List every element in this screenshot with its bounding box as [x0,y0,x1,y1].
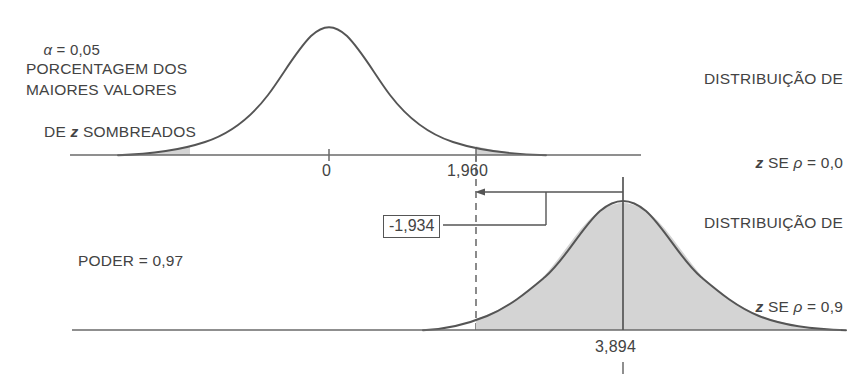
callout-value-box: -1,934 [383,215,440,238]
shading-caption-line-3: DE z SOMBREADOS [26,100,196,163]
lower-label-value: = 0,9 [803,298,843,315]
shading-caption-line-2: MAIORES VALORES [26,79,177,100]
power-label: PODER = 0,97 [78,250,183,271]
shading-caption-prefix: DE [44,123,70,140]
upper-label-value: = 0,0 [803,154,843,171]
upper-label-se: SE [763,154,793,171]
lower-label-rho: ρ [794,298,803,315]
power-analysis-figure: α = 0,05 PORCENTAGEM DOS MAIORES VALORES… [0,0,867,387]
alpha-symbol: α [43,41,52,58]
shading-caption-line-1: PORCENTAGEM DOS [26,58,187,79]
shading-caption-suffix: SOMBREADOS [78,123,196,140]
upper-label-rho: ρ [794,154,803,171]
lower-distribution-label-line1: DISTRIBUIÇÃO DE [704,212,843,233]
alpha-value: = 0,05 [52,41,100,58]
upper-tick-label-1960: 1,960 [447,162,488,180]
lower-label-se: SE [763,298,793,315]
upper-distribution-label-line1: DISTRIBUIÇÃO DE [704,68,843,89]
lower-tick-label-3894: 3,894 [595,338,636,356]
upper-tick-label-zero: 0 [322,162,331,180]
lower-distribution-label-line2: z SE ρ = 0,9 [704,275,843,338]
lower-distribution-label: DISTRIBUIÇÃO DE z SE ρ = 0,9 [704,170,843,380]
